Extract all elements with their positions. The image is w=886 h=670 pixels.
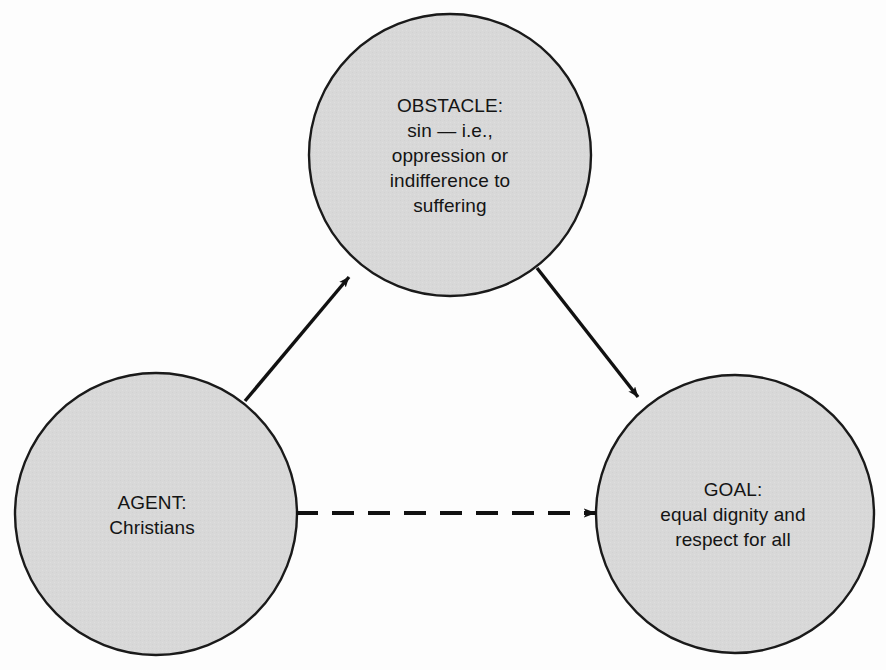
diagram-canvas: OBSTACLE: sin — i.e., oppression or indi… (0, 0, 886, 670)
diagram-graphics (0, 0, 886, 670)
goal-node-circle[interactable] (596, 375, 874, 653)
arrow-agent-to-obstacle (245, 277, 349, 401)
arrow-obstacle-to-goal (537, 268, 638, 397)
agent-node-circle[interactable] (15, 373, 297, 655)
obstacle-node-circle[interactable] (309, 14, 591, 296)
